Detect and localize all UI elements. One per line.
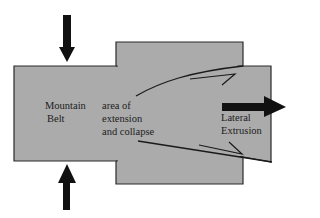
mountain-belt-label: Mountain Belt: [45, 99, 86, 125]
extension-label-line3: and collapse: [102, 125, 154, 138]
lateral-label-line1: Lateral: [221, 111, 262, 124]
lateral-extrusion-label: Lateral Extrusion: [221, 111, 262, 137]
mountain-belt-label-line1: Mountain: [45, 99, 86, 112]
extension-label-line1: area of: [102, 99, 154, 112]
compression-arrow-up-icon: [58, 164, 76, 210]
lateral-label-line2: Extrusion: [221, 124, 262, 137]
extension-area-label: area of extension and collapse: [102, 99, 154, 138]
mountain-belt-label-line2: Belt: [45, 112, 86, 125]
extension-label-line2: extension: [102, 112, 154, 125]
compression-arrow-down-icon: [59, 15, 75, 62]
